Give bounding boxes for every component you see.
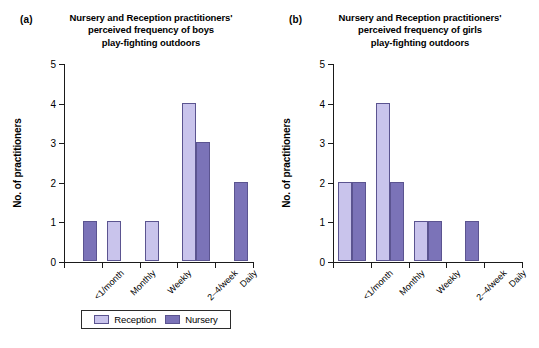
x-axis-labels-b: <1/monthMonthlyWeekly2–4/weekDaily — [333, 268, 523, 310]
bar-nursery-0 — [83, 221, 97, 261]
y-axis-tick — [59, 64, 64, 65]
bar-nursery-0 — [352, 182, 366, 261]
legend-a: Reception Nursery — [81, 310, 231, 329]
chart-panel-b: (b) Nursery and Reception practitioners'… — [269, 0, 539, 348]
title-line-3: play-fighting outdoors — [42, 37, 260, 49]
y-axis-tick — [59, 222, 64, 223]
bar-nursery-2 — [428, 221, 442, 261]
y-axis-tick-label: 1 — [319, 217, 325, 228]
title-line-3: play-fighting outdoors — [311, 37, 529, 49]
x-axis-category-label: Monthly — [397, 268, 426, 297]
y-axis-title-b: No. of practitioners — [281, 64, 295, 262]
y-axis-title-a: No. of practitioners — [12, 64, 26, 262]
bar-reception-1 — [376, 103, 390, 261]
x-axis-category-label: Daily — [507, 268, 528, 289]
y-axis-tick-label: 3 — [50, 138, 56, 149]
x-axis-category-label: 2–4/week — [475, 268, 509, 302]
x-axis-category-label: <1/month — [361, 268, 395, 302]
bar-reception-1 — [107, 221, 121, 261]
y-axis-tick-label: 1 — [50, 217, 56, 228]
x-axis-line — [64, 262, 254, 263]
legend-item-nursery: Nursery — [165, 314, 218, 325]
y-axis-tick — [328, 143, 333, 144]
y-axis-tick-label: 5 — [50, 59, 56, 70]
chart-panel-a: (a) Nursery and Reception practitioners'… — [0, 0, 269, 348]
y-axis-tick-label: 5 — [319, 59, 325, 70]
figure: (a) Nursery and Reception practitioners'… — [0, 0, 539, 348]
x-axis-category-label: Weekly — [434, 268, 462, 296]
x-axis-category-label: Monthly — [128, 268, 157, 297]
legend-label-reception: Reception — [114, 314, 156, 325]
bar-reception-2 — [145, 221, 159, 261]
y-axis-tick-label: 0 — [50, 257, 56, 268]
plot-area-a: 012345 — [64, 64, 253, 262]
bar-reception-3 — [182, 103, 196, 261]
x-axis-line — [333, 262, 523, 263]
bar-reception-0 — [338, 182, 352, 261]
y-axis-tick-label: 4 — [319, 98, 325, 109]
y-axis-tick — [328, 222, 333, 223]
y-axis-tick-label: 2 — [319, 177, 325, 188]
title-line-2: perceived frequency of girls — [311, 24, 529, 36]
title-line-1: Nursery and Reception practitioners' — [42, 12, 260, 24]
title-line-2: perceived frequency of boys — [42, 24, 260, 36]
y-axis-tick-label: 0 — [319, 257, 325, 268]
chart-title-b: Nursery and Reception practitioners' per… — [311, 12, 529, 49]
y-axis-tick — [59, 143, 64, 144]
y-axis-tick-label: 3 — [319, 138, 325, 149]
y-axis-tick — [59, 104, 64, 105]
y-axis-tick-label: 4 — [50, 98, 56, 109]
bar-nursery-3 — [196, 142, 210, 261]
x-axis-category-label: 2–4/week — [206, 268, 240, 302]
chart-title-a: Nursery and Reception practitioners' per… — [42, 12, 260, 49]
x-axis-category-label: Weekly — [165, 268, 193, 296]
reception-swatch-icon — [94, 315, 109, 324]
y-axis-line — [333, 64, 334, 263]
legend-item-reception: Reception — [94, 314, 156, 325]
bar-nursery-3 — [465, 221, 479, 261]
legend-label-nursery: Nursery — [185, 314, 218, 325]
panel-label-b: (b) — [289, 14, 302, 25]
y-axis-tick — [328, 64, 333, 65]
plot-area-b: 012345 — [333, 64, 522, 262]
x-axis-category-label: <1/month — [92, 268, 126, 302]
title-line-1: Nursery and Reception practitioners' — [311, 12, 529, 24]
y-axis-tick — [59, 183, 64, 184]
bar-reception-2 — [414, 221, 428, 261]
bar-nursery-4 — [234, 182, 248, 261]
x-axis-category-label: Daily — [238, 268, 259, 289]
bar-nursery-1 — [390, 182, 404, 261]
y-axis-tick — [328, 183, 333, 184]
y-axis-line — [64, 64, 65, 263]
nursery-swatch-icon — [165, 315, 180, 324]
y-axis-tick — [328, 104, 333, 105]
panel-label-a: (a) — [20, 14, 33, 25]
y-axis-tick-label: 2 — [50, 177, 56, 188]
x-axis-labels-a: <1/monthMonthlyWeekly2–4/weekDaily — [64, 268, 254, 310]
